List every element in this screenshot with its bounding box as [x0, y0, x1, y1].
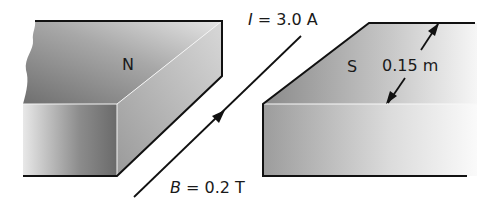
north-pole-label: N [122, 55, 134, 74]
field-label: B = 0.2 T [170, 178, 245, 197]
north-magnet-front-face [23, 104, 117, 176]
north-magnet: N [23, 21, 222, 176]
gap-width-label: 0.15 m [382, 56, 438, 75]
current-value: = 3.0 A [253, 10, 318, 29]
south-pole-label: S [347, 57, 357, 76]
current-label: I = 3.0 A [248, 10, 318, 29]
south-magnet-front-face [263, 104, 477, 176]
south-magnet: S [263, 23, 477, 176]
field-value: = 0.2 T [181, 178, 245, 197]
south-magnet-top-face [263, 23, 477, 104]
magnetic-force-diagram: N S 0.15 m I = 3.0 A B = 0.2 T [0, 0, 477, 221]
field-symbol: B [170, 178, 181, 197]
